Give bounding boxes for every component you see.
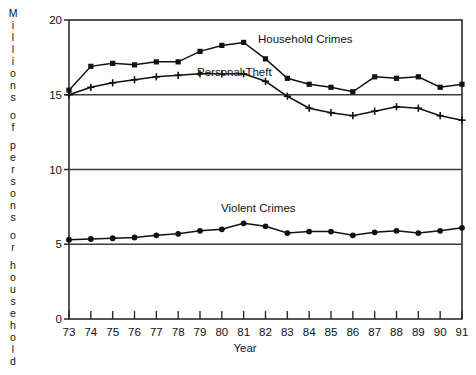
y-tick-label-5: 5 — [56, 238, 62, 250]
data-point — [154, 59, 159, 64]
x-tick-label-81: 81 — [237, 326, 250, 338]
x-tick-label-77: 77 — [150, 326, 163, 338]
data-point — [263, 56, 268, 61]
series-label-household-crimes: Household Crimes — [258, 33, 353, 45]
line-chart-canvas: 05101520 7374757677787980818283848586878… — [0, 0, 476, 375]
data-point — [132, 235, 138, 241]
x-tick-label-74: 74 — [84, 326, 97, 338]
data-point — [459, 225, 465, 231]
x-tick-label-91: 91 — [456, 326, 469, 338]
x-tick-label-84: 84 — [303, 326, 316, 338]
data-point — [132, 62, 137, 67]
data-point — [197, 49, 202, 54]
data-point — [438, 85, 443, 90]
series-label-personal-theft: Personal Theft — [197, 66, 272, 78]
x-tick-label-88: 88 — [390, 326, 403, 338]
data-point — [415, 230, 421, 236]
data-point — [437, 228, 443, 234]
data-point — [394, 76, 399, 81]
x-tick-label-75: 75 — [106, 326, 119, 338]
x-tick-label-78: 78 — [172, 326, 185, 338]
data-point — [350, 89, 355, 94]
x-tick-label-86: 86 — [346, 326, 359, 338]
x-tick-label-85: 85 — [325, 326, 338, 338]
data-point — [110, 235, 116, 241]
y-axis-tick-labels: 05101520 — [49, 14, 69, 325]
data-point — [88, 64, 93, 69]
data-point — [241, 40, 246, 45]
y-tick-label-0: 0 — [56, 313, 62, 325]
series-annotations: Household CrimesPersonal TheftViolent Cr… — [197, 33, 353, 214]
x-tick-label-90: 90 — [434, 326, 447, 338]
data-point — [88, 236, 94, 242]
data-point — [328, 229, 334, 235]
data-point — [284, 230, 290, 236]
gridlines — [69, 95, 462, 245]
x-axis-title: Year — [233, 342, 256, 354]
y-tick-label-10: 10 — [49, 164, 62, 176]
series-violent-crimes — [66, 220, 465, 242]
data-point — [328, 85, 333, 90]
x-tick-label-87: 87 — [368, 326, 381, 338]
data-point — [176, 59, 181, 64]
data-point — [372, 229, 378, 235]
data-point — [219, 43, 224, 48]
data-point — [307, 82, 312, 87]
x-tick-label-76: 76 — [128, 326, 141, 338]
x-tick-label-83: 83 — [281, 326, 294, 338]
series-label-violent-crimes: Violent Crimes — [221, 202, 296, 214]
data-point — [219, 226, 225, 232]
x-tick-label-80: 80 — [215, 326, 228, 338]
data-point — [263, 223, 269, 229]
x-tick-label-89: 89 — [412, 326, 425, 338]
y-tick-label-15: 15 — [49, 89, 62, 101]
data-point — [416, 74, 421, 79]
chart-figure: Millionsofpersonsorhousehold 05101520 73… — [0, 0, 476, 375]
x-tick-label-82: 82 — [259, 326, 272, 338]
x-tick-label-79: 79 — [194, 326, 207, 338]
x-axis-ticks — [69, 311, 462, 319]
data-point — [175, 231, 181, 237]
data-point — [66, 237, 72, 243]
data-point — [153, 232, 159, 238]
y-tick-label-20: 20 — [49, 14, 62, 26]
data-point — [110, 61, 115, 66]
data-point — [241, 220, 247, 226]
data-point — [372, 74, 377, 79]
data-point — [459, 82, 464, 87]
data-point — [306, 229, 312, 235]
x-axis-tick-labels: 73747576777879808182838485868788899091 — [63, 326, 469, 338]
data-point — [285, 76, 290, 81]
data-point — [394, 228, 400, 234]
x-tick-label-73: 73 — [63, 326, 76, 338]
data-point — [197, 228, 203, 234]
data-point — [350, 232, 356, 238]
